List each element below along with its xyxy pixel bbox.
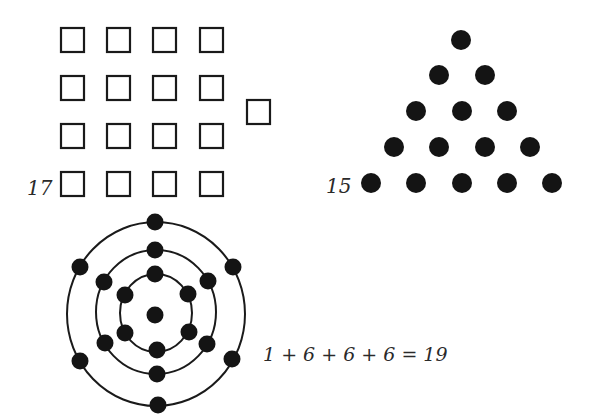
hexagonal-label: 1 + 6 + 6 + 6 = 19 — [263, 343, 448, 365]
triangle-label: 15 — [326, 174, 351, 198]
figure-canvas: 17 15 — [0, 0, 589, 420]
square-grid-label: 17 — [27, 176, 53, 200]
center-dot — [147, 307, 164, 324]
dot-triangle — [361, 30, 562, 193]
extra-square — [247, 100, 270, 124]
hexagonal-rings — [67, 214, 245, 414]
square-grid — [61, 28, 270, 196]
